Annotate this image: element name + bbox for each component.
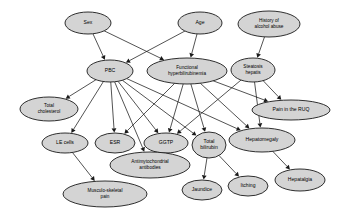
arrowhead-icon (192, 131, 197, 135)
node-jaundice[interactable]: Jaundice (182, 180, 222, 200)
node-shape-lecells (42, 133, 88, 153)
edge-fhb-to-bilirubin (191, 84, 204, 128)
bayesian-network-graph: SexAgeHistory ofalcohol abusePBCFunction… (0, 0, 341, 213)
edge-sex-to-fhb (104, 31, 160, 58)
node-layer: SexAgeHistory ofalcohol abusePBCFunction… (20, 11, 330, 207)
diagram-canvas: SexAgeHistory ofalcohol abusePBCFunction… (0, 0, 341, 213)
node-shape-hepatomeg (229, 128, 295, 152)
node-hepatomeg[interactable]: Hepatomegaly (229, 128, 295, 152)
edge-age-to-fhb (192, 34, 197, 54)
node-shape-ruq (252, 100, 330, 120)
node-shape-sex (65, 12, 111, 34)
node-bilirubin[interactable]: Totalbilirubin (192, 132, 226, 158)
edge-pbc-to-ggtp (118, 81, 156, 130)
node-ggtp[interactable]: GGTP (144, 133, 188, 153)
node-age[interactable]: Age (178, 12, 222, 34)
edge-bilirubin-to-itching (219, 156, 236, 174)
edge-pbc-to-cholesterol (69, 80, 96, 97)
edge-pbc-to-esr (111, 82, 114, 128)
node-sex[interactable]: Sex (65, 12, 111, 34)
arrowhead-icon (112, 128, 117, 132)
node-shape-alcohol (238, 11, 300, 37)
edge-fhb-to-hepatomeg (200, 83, 246, 125)
node-ruq[interactable]: Pain in the RUQ (252, 100, 330, 120)
node-shape-jaundice (182, 180, 222, 200)
edge-hepatomeg-to-hepatalgia (273, 151, 287, 166)
node-shape-pbc (87, 60, 133, 82)
node-hepatalgia[interactable]: Hepatalgia (275, 169, 325, 191)
node-shape-itching (228, 176, 268, 196)
edge-steatosis-to-ruq (263, 81, 278, 97)
node-ama[interactable]: Antimytochondrialantibodies (110, 152, 190, 178)
node-shape-ggtp (144, 133, 188, 153)
edge-sex-to-pbc (93, 34, 103, 56)
node-shape-msp (63, 181, 147, 207)
arrowhead-icon (257, 123, 262, 127)
node-shape-steatosis (231, 58, 275, 82)
node-fhb[interactable]: Functionalhyperbilirubinemia (147, 58, 227, 84)
edge-age-to-pbc (130, 31, 185, 61)
arrowhead-icon (90, 176, 94, 181)
arrowhead-icon (202, 175, 207, 180)
node-lecells[interactable]: LE cells (42, 133, 88, 153)
edge-alcohol-to-steatosis (259, 37, 265, 54)
node-cholesterol[interactable]: Totalcholesterol (20, 97, 78, 121)
arrowhead-icon (202, 127, 207, 132)
node-msp[interactable]: Musculo-skeletalpain (63, 181, 147, 207)
node-pbc[interactable]: PBC (87, 60, 133, 82)
arrowhead-icon (189, 53, 194, 58)
edge-steatosis-to-ggtp (180, 80, 241, 131)
node-shape-bilirubin (192, 132, 226, 158)
node-itching[interactable]: Itching (228, 176, 268, 196)
node-shape-fhb (147, 58, 227, 84)
node-alcohol[interactable]: History ofalcohol abuse (238, 11, 300, 37)
node-shape-cholesterol (20, 97, 78, 121)
node-shape-hepatalgia (275, 169, 325, 191)
arrowhead-icon (154, 128, 158, 133)
arrowhead-icon (168, 128, 173, 133)
edge-lecells-to-msp (72, 152, 92, 177)
edge-fhb-to-ggtp (170, 84, 183, 129)
node-shape-ama (110, 152, 190, 178)
node-steatosis[interactable]: Steatosishepatis (231, 58, 275, 82)
edge-bilirubin-to-jaundice (204, 158, 207, 175)
node-esr[interactable]: ESR (95, 133, 135, 153)
edge-pbc-to-hepatomeg (127, 79, 237, 129)
node-shape-age (178, 12, 222, 34)
edge-steatosis-to-hepatomeg (255, 82, 260, 123)
edge-pbc-to-lecells (74, 82, 104, 130)
node-shape-esr (95, 133, 135, 153)
